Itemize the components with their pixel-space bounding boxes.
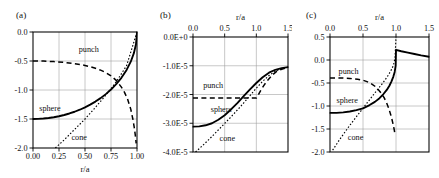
panel-b-curve-labels: punchspherecone <box>203 81 235 143</box>
panel-a-axis-title: r/a <box>80 164 89 174</box>
curve-label-cone: cone <box>71 133 87 142</box>
curve-label-punch: punch <box>79 45 99 54</box>
y-tick-label: 0.0 <box>17 28 27 37</box>
curve-cone <box>333 37 396 150</box>
panel-a-label: (a) <box>16 10 26 20</box>
curve-label-sphere: sphere <box>211 105 233 114</box>
curve-label-sphere: sphere <box>39 104 61 113</box>
panel-c-axis-title: r/a <box>375 12 384 22</box>
y-tick-label: -1.0E-5 <box>163 62 188 71</box>
y-tick-label: -1.0 <box>312 102 325 111</box>
x-axis-title: r/a <box>375 12 384 22</box>
y-tick-label: -1.5 <box>312 125 325 134</box>
y-tick-label: -1.5 <box>15 115 28 124</box>
y-tick-label: -2.0E-5 <box>163 91 188 100</box>
x-tick-label: 1.5 <box>283 24 292 33</box>
x-tick-label: 0.5 <box>220 24 230 33</box>
y-tick-label: -2.0 <box>312 148 325 157</box>
panel-c-svg: (c) 0.00.51.01.50.50.0-0.5-1.0-1.5-2.0 p… <box>292 0 439 178</box>
y-tick-label: 0.0E+0 <box>164 33 188 42</box>
panel-c-curves <box>330 37 429 150</box>
panel-c-ticks <box>327 34 430 153</box>
curve-label-punch: punch <box>203 81 223 90</box>
curve-punch <box>33 61 136 143</box>
panel-b-ticks <box>190 34 289 153</box>
panel-c: (c) 0.00.51.01.50.50.0-0.5-1.0-1.5-2.0 p… <box>292 0 439 178</box>
x-tick-label: 0.5 <box>358 24 368 33</box>
panel-b-gridlines <box>193 37 288 152</box>
x-axis-title: r/a <box>80 164 89 174</box>
panel-c-label: (c) <box>306 10 316 20</box>
panel-b-curves <box>193 67 288 152</box>
curve-label-sphere: sphere <box>337 96 359 105</box>
curve-label-cone: cone <box>220 134 236 143</box>
y-tick-label: -2.0 <box>15 144 28 153</box>
x-tick-label: 1.00 <box>130 152 144 161</box>
x-tick-label: 0.75 <box>104 152 118 161</box>
y-tick-label: 0.5 <box>314 33 324 42</box>
panel-b: (b) 0.00.51.01.50.0E+0-1.0E-5-2.0E-5-3.0… <box>146 0 292 178</box>
x-tick-label: 1.5 <box>424 24 434 33</box>
x-tick-label: 1.0 <box>391 24 401 33</box>
y-tick-label: -4.0E-5 <box>163 148 188 157</box>
x-tick-label: 0.50 <box>78 152 92 161</box>
y-tick-label: -0.5 <box>312 79 325 88</box>
panel-a-svg: (a) 0.000.250.500.751.00-2.0-1.5-1.0-0.5… <box>0 0 146 178</box>
panel-b-axis-title: r/a <box>236 12 245 22</box>
y-tick-label: 0.0 <box>314 56 324 65</box>
panel-b-label: (b) <box>160 10 171 20</box>
panel-b-svg: (b) 0.00.51.01.50.0E+0-1.0E-5-2.0E-5-3.0… <box>146 0 292 178</box>
x-axis-title: r/a <box>236 12 245 22</box>
figure-container: (a) 0.000.250.500.751.00-2.0-1.5-1.0-0.5… <box>0 0 439 178</box>
panel-a-curve-labels: spherepunchcone <box>39 45 99 142</box>
y-tick-label: -1.0 <box>15 86 28 95</box>
curve-label-punch: punch <box>339 67 359 76</box>
x-tick-label: 0.0 <box>188 24 198 33</box>
y-tick-label: -0.5 <box>15 57 28 66</box>
x-tick-label: 0.0 <box>325 24 335 33</box>
y-tick-label: -3.0E-5 <box>163 119 188 128</box>
curve-label-cone: cone <box>348 133 364 142</box>
x-tick-label: 0.25 <box>52 152 66 161</box>
x-tick-label: 1.0 <box>251 24 261 33</box>
x-tick-label: 0.00 <box>26 152 40 161</box>
curve-cone <box>196 67 288 152</box>
panel-a: (a) 0.000.250.500.751.00-2.0-1.5-1.0-0.5… <box>0 0 146 178</box>
curve-sphere <box>193 67 288 127</box>
